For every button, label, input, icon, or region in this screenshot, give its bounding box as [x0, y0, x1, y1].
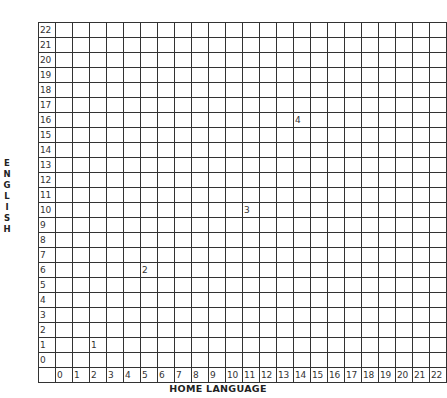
grid-cell: [294, 38, 311, 53]
grid-cell: [277, 263, 294, 278]
grid-cell: [379, 38, 396, 53]
grid-cell: [124, 293, 141, 308]
grid-cell: [294, 128, 311, 143]
grid-cell: [362, 338, 379, 353]
grid-cell: [277, 353, 294, 368]
grid-cell: [277, 323, 294, 338]
grid-row: 20: [39, 53, 447, 68]
y-tick-label: 20: [39, 53, 56, 68]
grid-cell: [328, 158, 345, 173]
grid-cell: [430, 53, 447, 68]
grid-cell: [277, 158, 294, 173]
x-tick-label: 8: [192, 368, 209, 383]
y-tick-label: 15: [39, 128, 56, 143]
grid-cell: [294, 83, 311, 98]
grid-cell: [243, 353, 260, 368]
grid-cell: [107, 203, 124, 218]
grid-cell: [158, 53, 175, 68]
grid-cell: [362, 188, 379, 203]
grid-cell: [345, 188, 362, 203]
grid-cell: [328, 218, 345, 233]
grid-cell: [158, 353, 175, 368]
grid-cell: [226, 263, 243, 278]
grid-cell: [209, 353, 226, 368]
grid-cell: [90, 53, 107, 68]
grid-cell: [192, 98, 209, 113]
grid-cell: [73, 53, 90, 68]
grid-cell: [243, 98, 260, 113]
grid-cell: [379, 188, 396, 203]
grid-cell: [430, 143, 447, 158]
y-tick-label: 8: [39, 233, 56, 248]
grid-cell: [243, 173, 260, 188]
grid-cell: [158, 308, 175, 323]
grid-cell: [277, 203, 294, 218]
grid-cell: [158, 158, 175, 173]
grid-cell: [413, 323, 430, 338]
x-tick-label: 14: [294, 368, 311, 383]
grid-cell: [328, 338, 345, 353]
grid-cell: [311, 98, 328, 113]
grid-cell: [192, 143, 209, 158]
grid-cell: [328, 278, 345, 293]
grid-cell: [430, 83, 447, 98]
grid-cell: [311, 233, 328, 248]
grid-cell: [209, 143, 226, 158]
grid-cell: [209, 188, 226, 203]
y-axis-label-letter: G: [2, 180, 12, 191]
grid-cell: [294, 143, 311, 158]
grid-cell: [175, 308, 192, 323]
grid-cell: [277, 278, 294, 293]
grid-cell: [328, 203, 345, 218]
grid-cell: [107, 308, 124, 323]
y-tick-label: 2: [39, 323, 56, 338]
grid-cell: [124, 188, 141, 203]
grid-row: 7: [39, 248, 447, 263]
grid-cell: [430, 248, 447, 263]
grid-cell: [192, 188, 209, 203]
grid-cell: [243, 158, 260, 173]
grid-cell: [158, 98, 175, 113]
grid-cell: [226, 353, 243, 368]
grid-cell: [413, 68, 430, 83]
grid-cell: [90, 248, 107, 263]
grid-cell: [345, 98, 362, 113]
grid-cell: [124, 338, 141, 353]
grid-cell: [107, 98, 124, 113]
grid-cell: [243, 113, 260, 128]
grid-cell: [158, 23, 175, 38]
grid-cell: [243, 338, 260, 353]
data-point: 3: [243, 203, 260, 218]
grid-cell: [413, 173, 430, 188]
grid-row: 103: [39, 203, 447, 218]
grid-cell: [124, 113, 141, 128]
grid-cell: [90, 23, 107, 38]
grid-cell: [175, 278, 192, 293]
grid-cell: [141, 278, 158, 293]
grid-cell: [226, 308, 243, 323]
grid-cell: [294, 173, 311, 188]
grid-cell: [277, 308, 294, 323]
grid-cell: [328, 293, 345, 308]
grid-cell: [345, 128, 362, 143]
grid-cell: [90, 68, 107, 83]
grid-cell: [124, 353, 141, 368]
grid-cell: [345, 338, 362, 353]
grid-cell: [175, 98, 192, 113]
grid-cell: [158, 128, 175, 143]
grid-cell: [243, 188, 260, 203]
grid-cell: [396, 263, 413, 278]
x-tick-label: 22: [430, 368, 447, 383]
grid-cell: [73, 353, 90, 368]
grid-cell: [226, 128, 243, 143]
grid-cell: [73, 308, 90, 323]
grid-cell: [175, 323, 192, 338]
grid-cell: [362, 158, 379, 173]
grid-cell: [141, 338, 158, 353]
grid-cell: [294, 263, 311, 278]
y-tick-label: 7: [39, 248, 56, 263]
grid-cell: [73, 188, 90, 203]
x-tick-label: 21: [413, 368, 430, 383]
grid-cell: [260, 143, 277, 158]
grid-cell: [90, 308, 107, 323]
